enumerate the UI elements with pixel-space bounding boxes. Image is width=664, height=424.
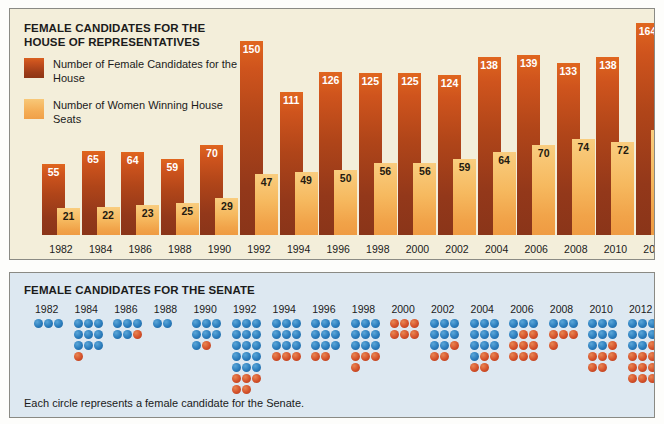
- senate-candidate-dot-red: [559, 330, 568, 339]
- senate-candidate-dot-blue: [192, 319, 201, 328]
- senate-candidate-dot-red: [588, 352, 597, 361]
- bar-winners-1982: 21: [57, 208, 80, 235]
- senate-candidate-dot-blue: [123, 330, 132, 339]
- senate-candidate-dot-blue: [34, 319, 43, 328]
- senate-candidate-dot-blue: [84, 330, 93, 339]
- senate-dot-row: [351, 319, 393, 329]
- senate-dot-row: [272, 352, 314, 362]
- senate-candidate-dot-red: [509, 352, 518, 361]
- senate-candidate-dot-blue: [252, 319, 261, 328]
- house-x-tick-1996: 1996: [318, 243, 358, 255]
- senate-column-1992: 1992: [232, 303, 274, 395]
- bar-wrap: 6423: [121, 23, 159, 235]
- senate-candidate-dot-blue: [252, 352, 261, 361]
- senate-column-2000: 2000: [390, 303, 432, 340]
- senate-dot-row: [628, 330, 655, 340]
- bar-group-1986: 6423: [121, 23, 159, 235]
- senate-x-tick-2012: 2012: [628, 303, 655, 315]
- senate-candidate-dot-blue: [371, 341, 380, 350]
- senate-candidate-dot-red: [232, 385, 241, 394]
- bar-value-winners-1984: 22: [102, 207, 114, 235]
- bar-winners-2002: 59: [453, 159, 476, 235]
- bar-value-winners-2004: 64: [498, 152, 510, 235]
- senate-candidate-dot-blue: [430, 319, 439, 328]
- senate-candidate-dot-blue: [232, 319, 241, 328]
- senate-candidate-dot-blue: [480, 330, 489, 339]
- senate-candidate-dot-red: [638, 363, 647, 372]
- senate-candidate-dot-red: [648, 374, 655, 383]
- senate-candidate-dot-blue: [440, 319, 449, 328]
- house-x-tick-1984: 1984: [81, 243, 121, 255]
- senate-dot-row: [272, 330, 314, 340]
- bar-value-winners-2002: 59: [459, 159, 471, 235]
- senate-candidate-dot-red: [242, 385, 251, 394]
- bar-group-1994: 11149: [280, 23, 318, 235]
- senate-dot-row: [628, 319, 655, 329]
- senate-candidate-dot-blue: [450, 319, 459, 328]
- senate-candidate-dot-blue: [440, 330, 449, 339]
- senate-candidate-dot-blue: [361, 341, 370, 350]
- senate-candidate-dot-blue: [242, 363, 251, 372]
- senate-dot-row: [74, 319, 116, 329]
- house-x-tick-2002: 2002: [437, 243, 477, 255]
- bar-winners-2008: 74: [572, 139, 595, 235]
- senate-candidate-dot-red: [638, 352, 647, 361]
- senate-candidate-dot-blue: [252, 330, 261, 339]
- house-x-tick-2012: 2012: [635, 243, 655, 255]
- senate-dot-row: [549, 319, 591, 329]
- senate-candidate-dot-blue: [212, 330, 221, 339]
- senate-dot-row: [192, 319, 234, 329]
- senate-candidate-dot-blue: [54, 319, 63, 328]
- senate-dot-row: [430, 341, 472, 351]
- senate-candidate-dot-red: [470, 363, 479, 372]
- senate-candidate-dot-red: [371, 352, 380, 361]
- senate-candidate-dot-blue: [94, 330, 103, 339]
- senate-candidate-dot-blue: [292, 341, 301, 350]
- senate-candidate-dot-blue: [202, 330, 211, 339]
- senate-dot-row: [470, 341, 512, 351]
- senate-x-tick-1998: 1998: [351, 303, 393, 315]
- senate-dot-row: [272, 341, 314, 351]
- senate-candidate-dot-blue: [232, 363, 241, 372]
- senate-candidate-dot-blue: [638, 319, 647, 328]
- bar-group-1984: 6522: [82, 23, 120, 235]
- house-x-tick-1994: 1994: [279, 243, 319, 255]
- senate-dot-stack: [588, 319, 630, 373]
- senate-dot-row: [192, 341, 234, 351]
- senate-dot-row: [311, 352, 353, 362]
- senate-column-2010: 2010: [588, 303, 630, 373]
- senate-dot-row: [470, 352, 512, 362]
- senate-candidate-dot-blue: [242, 341, 251, 350]
- senate-x-tick-1988: 1988: [153, 303, 195, 315]
- senate-candidate-dot-red: [242, 374, 251, 383]
- senate-candidate-dot-blue: [192, 341, 201, 350]
- senate-dot-stack: [390, 319, 432, 340]
- bar-group-2010: 13872: [596, 23, 634, 235]
- bar-wrap: 5521: [42, 23, 80, 235]
- bar-value-winners-1982: 21: [63, 208, 75, 235]
- bar-group-2002: 12459: [438, 23, 476, 235]
- senate-candidate-dot-red: [133, 330, 142, 339]
- bar-group-1996: 12650: [319, 23, 357, 235]
- senate-candidate-dot-blue: [311, 330, 320, 339]
- senate-candidate-dot-blue: [509, 319, 518, 328]
- senate-candidate-dot-red: [529, 330, 538, 339]
- senate-column-1982: 1982: [34, 303, 76, 329]
- senate-candidate-dot-red: [202, 341, 211, 350]
- senate-dot-row: [509, 341, 551, 351]
- senate-candidate-dot-blue: [628, 319, 637, 328]
- bar-value-winners-1992: 47: [261, 174, 273, 235]
- house-x-tick-2000: 2000: [397, 243, 437, 255]
- senate-dot-row: [232, 352, 274, 362]
- bar-group-1992: 15047: [240, 23, 278, 235]
- senate-candidate-dot-red: [648, 341, 655, 350]
- senate-candidate-dot-red: [608, 341, 617, 350]
- senate-candidate-dot-red: [569, 330, 578, 339]
- senate-candidate-dot-red: [529, 352, 538, 361]
- senate-dot-row: [311, 319, 353, 329]
- senate-candidate-dot-blue: [311, 341, 320, 350]
- bar-group-1988: 5925: [161, 23, 199, 235]
- senate-candidate-dot-blue: [192, 330, 201, 339]
- senate-dot-row: [628, 352, 655, 362]
- senate-dot-row: [34, 319, 76, 329]
